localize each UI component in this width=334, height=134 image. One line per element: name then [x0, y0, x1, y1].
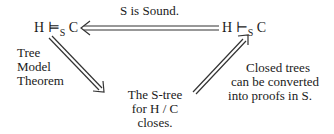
- label-line: Model: [17, 60, 64, 74]
- node-line: closes.: [118, 116, 192, 130]
- node-rhs: C: [257, 20, 266, 35]
- node-subscript: S: [60, 27, 66, 38]
- label-line: can be converted: [207, 75, 333, 89]
- double-turnstile-symbol: ⊨: [48, 20, 60, 35]
- tree-model-theorem-label: Tree Model Theorem: [17, 46, 64, 88]
- closed-trees-label: Closed trees can be converted into proof…: [207, 61, 333, 103]
- single-turnstile-symbol: ⊢: [236, 20, 248, 35]
- label-line: into proofs in S.: [207, 89, 333, 103]
- node-lhs: H: [34, 20, 44, 35]
- semantic-entailment-node: H ⊨S C: [34, 21, 78, 36]
- node-line: The S-tree: [118, 88, 192, 102]
- label-line: Closed trees: [207, 61, 333, 75]
- node-line: for H / C: [118, 102, 192, 116]
- node-subscript: S: [248, 27, 254, 38]
- label-line: Tree: [17, 46, 64, 60]
- s-tree-closes-node: The S-tree for H / C closes.: [118, 88, 192, 130]
- node-lhs: H: [222, 20, 232, 35]
- derivability-node: H ⊢S C: [222, 21, 266, 36]
- node-rhs: C: [69, 20, 78, 35]
- label-line: Theorem: [17, 74, 64, 88]
- soundness-label: S is Sound.: [120, 4, 179, 18]
- soundness-arrow: [81, 21, 219, 35]
